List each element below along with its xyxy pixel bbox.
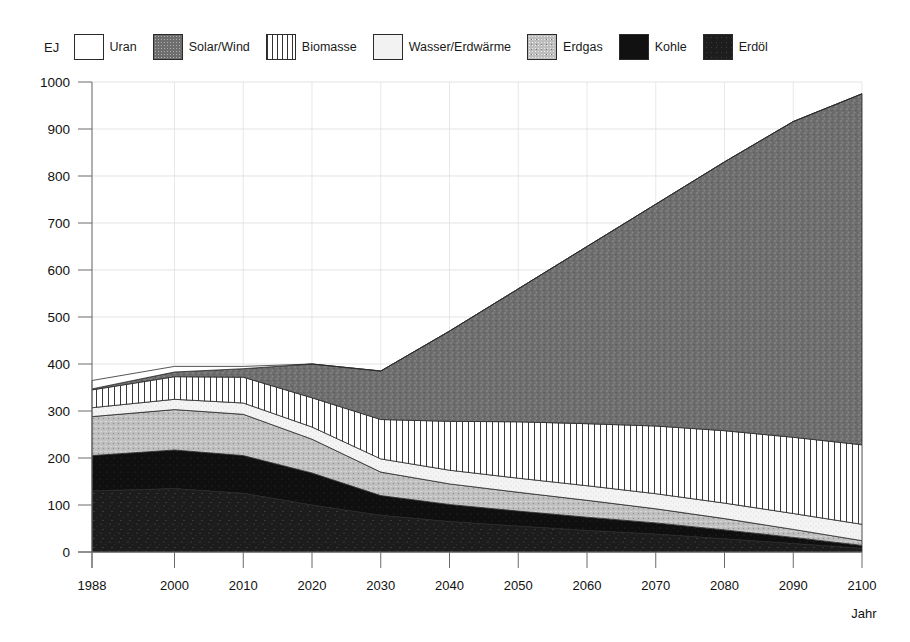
y-axis-ticks: 01002003004005006007008009001000 (40, 75, 92, 560)
chart-root: EJ UranSolar/WindBiomasseWasser/Erdwärme… (0, 0, 910, 642)
y-tick-label: 0 (62, 545, 70, 560)
y-tick-label: 500 (47, 310, 70, 325)
x-tick-label: 2030 (366, 578, 395, 593)
x-tick-label: 1988 (78, 578, 107, 593)
stacked-areas (92, 94, 862, 552)
x-axis-label: Jahr (851, 606, 877, 621)
x-tick-label: 2070 (641, 578, 670, 593)
plot-area: 01002003004005006007008009001000 1988200… (0, 0, 910, 642)
x-tick-label: 2100 (848, 578, 877, 593)
y-tick-label: 200 (47, 451, 70, 466)
y-tick-label: 300 (47, 404, 70, 419)
x-tick-label: 2050 (504, 578, 533, 593)
y-tick-label: 900 (47, 122, 70, 137)
chart-svg: 01002003004005006007008009001000 1988200… (0, 0, 910, 642)
x-tick-label: 2010 (229, 578, 258, 593)
x-axis-ticks: 1988200020102020203020402050206020702080… (78, 552, 877, 593)
x-tick-label: 2090 (779, 578, 808, 593)
y-tick-label: 1000 (40, 75, 70, 90)
x-tick-label: 2060 (573, 578, 602, 593)
x-tick-label: 2040 (435, 578, 464, 593)
x-tick-label: 2000 (160, 578, 189, 593)
x-tick-label: 2080 (710, 578, 739, 593)
y-tick-label: 400 (47, 357, 70, 372)
y-tick-label: 700 (47, 216, 70, 231)
y-tick-label: 100 (47, 498, 70, 513)
x-tick-label: 2020 (298, 578, 327, 593)
y-tick-label: 800 (47, 169, 70, 184)
y-tick-label: 600 (47, 263, 70, 278)
